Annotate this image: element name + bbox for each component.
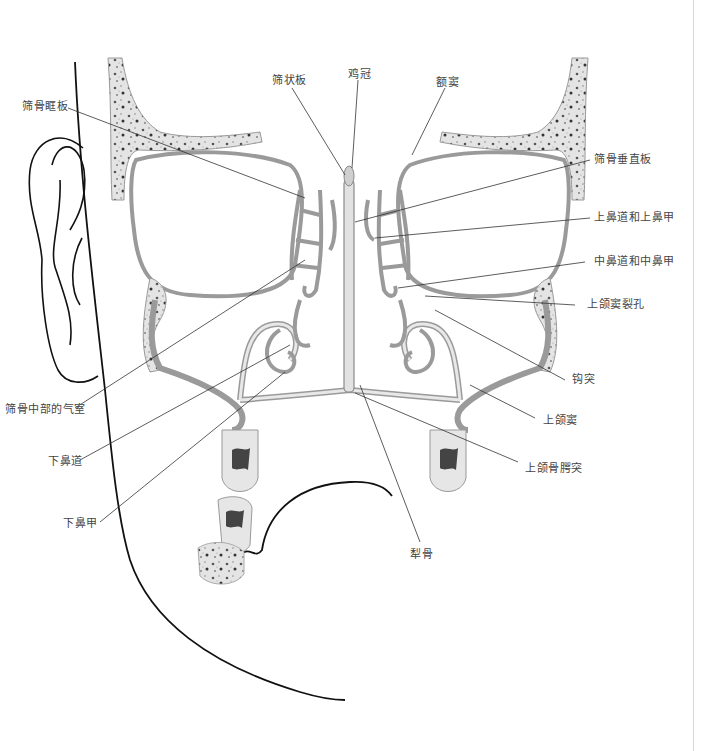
label-maxillary-sinus: 上颌窦 — [543, 414, 578, 427]
label-middle-meatus-concha: 中鼻道和中鼻甲 — [594, 255, 675, 268]
label-uncinate-process: 钩突 — [572, 373, 595, 386]
sinus-anatomy-diagram — [0, 0, 721, 751]
label-inferior-meatus: 下鼻道 — [48, 455, 83, 468]
nasal-septum — [344, 166, 354, 392]
label-orbital-plate-ethmoid: 筛骨眶板 — [22, 100, 68, 113]
label-cribriform-plate: 筛状板 — [272, 74, 307, 87]
ear-outline — [29, 138, 98, 382]
mouth-outline — [240, 482, 392, 555]
label-inferior-concha: 下鼻甲 — [63, 517, 98, 530]
label-vomer: 犁骨 — [410, 548, 433, 561]
label-ethmoid-air-cells: 筛骨中部的气室 — [5, 403, 86, 416]
label-crista-galli: 鸡冠 — [348, 68, 371, 81]
label-perpendicular-plate: 筛骨垂直板 — [594, 153, 652, 166]
label-frontal-sinus: 额窦 — [436, 76, 459, 89]
label-maxillary-hiatus: 上颌窦裂孔 — [587, 298, 645, 311]
label-superior-meatus-concha: 上鼻道和上鼻甲 — [594, 211, 675, 224]
label-palatine-process: 上颌骨腭突 — [525, 462, 583, 475]
